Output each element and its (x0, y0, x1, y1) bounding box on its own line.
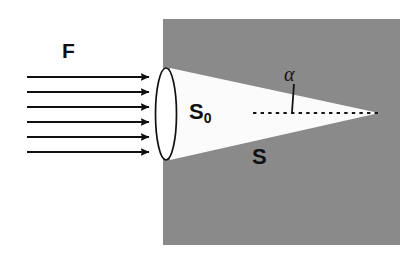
aperture-area-symbol: S (189, 99, 204, 124)
figure-container: рис. 1.6 Схема распростр (0, 0, 418, 255)
aperture-ellipse (156, 68, 177, 160)
aperture-area-subscript: 0 (204, 110, 212, 126)
half-angle-label: α (284, 64, 295, 84)
flux-label: F (62, 40, 75, 61)
surface-area-label: S (252, 146, 267, 168)
aperture-area-label: S0 (189, 101, 211, 123)
free-space-region (0, 0, 163, 255)
